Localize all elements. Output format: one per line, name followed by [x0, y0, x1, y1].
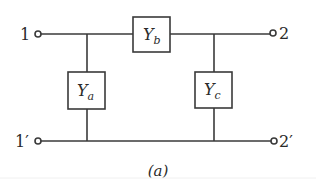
terminal-2-node [270, 30, 276, 36]
yc-label: Yc [204, 80, 221, 102]
terminal-1prime-label: 1′ [15, 132, 29, 151]
ya-label: Ya [77, 81, 94, 103]
terminal-2prime-label: 2′ [279, 132, 293, 151]
terminal-2prime-node [271, 138, 277, 144]
terminal-2-label: 2 [279, 24, 289, 43]
terminal-1-label: 1 [20, 25, 30, 44]
figure-caption: (a) [148, 162, 169, 180]
terminal-1-node [35, 31, 41, 37]
terminal-1prime-node [35, 138, 41, 144]
yb-label: Yb [143, 25, 161, 47]
pi-network-diagram: 1 1′ 2 2′ Yb Ya Yc (a) [0, 0, 316, 194]
